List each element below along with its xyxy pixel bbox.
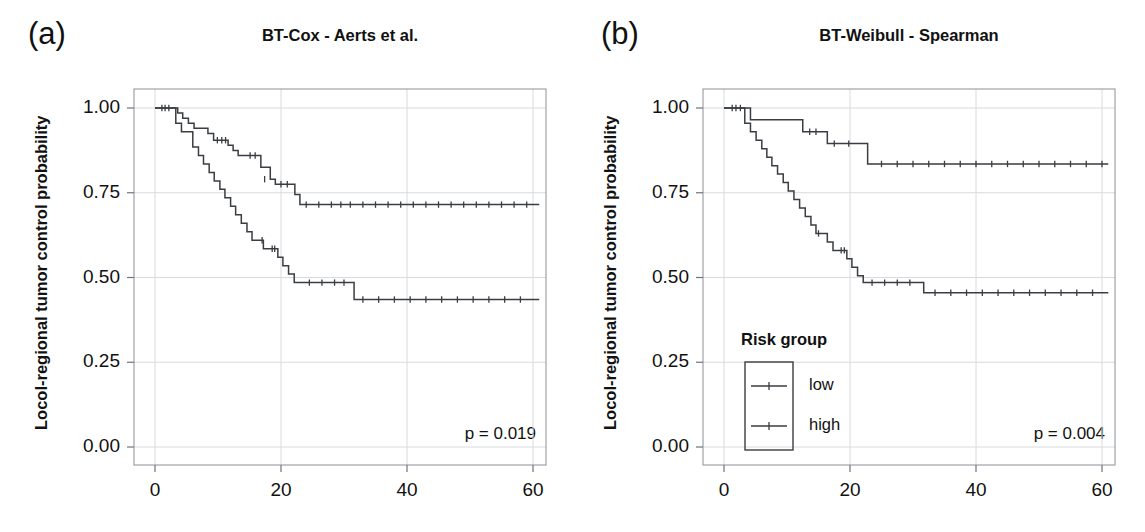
y-tick-label-b: 1.00 xyxy=(623,96,689,118)
y-tick-label-b: 0.50 xyxy=(623,266,689,288)
legend-box xyxy=(745,362,793,450)
x-tick-label-a: 60 xyxy=(503,479,563,501)
y-tick-label-a: 1.00 xyxy=(54,96,120,118)
x-tick-label-b: 40 xyxy=(946,479,1006,501)
x-tick-label-b: 60 xyxy=(1072,479,1132,501)
y-tick-label-a: 0.25 xyxy=(54,350,120,372)
y-tick-label-a: 0.50 xyxy=(54,266,120,288)
y-tick-label-a: 0.75 xyxy=(54,181,120,203)
y-tick-label-b: 0.75 xyxy=(623,181,689,203)
panel-a: (a) BT-Cox - Aerts et al. Locol-regional… xyxy=(0,0,572,532)
x-tick-label-a: 0 xyxy=(125,479,185,501)
x-tick-label-a: 40 xyxy=(377,479,437,501)
panel-b: (b) BT-Weibull - Spearman Locol-regional… xyxy=(573,0,1145,532)
x-tick-label-a: 20 xyxy=(251,479,311,501)
y-tick-label-b: 0.25 xyxy=(623,350,689,372)
y-tick-label-a: 0.00 xyxy=(54,435,120,457)
x-tick-label-b: 0 xyxy=(694,479,754,501)
y-tick-label-b: 0.00 xyxy=(623,435,689,457)
figure-kaplan-meier: (a) BT-Cox - Aerts et al. Locol-regional… xyxy=(0,0,1145,532)
x-tick-label-b: 20 xyxy=(820,479,880,501)
